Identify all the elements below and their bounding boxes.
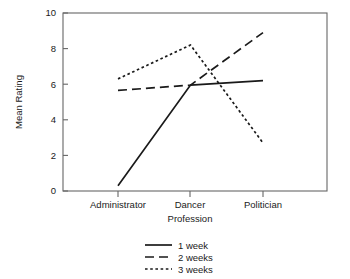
chart-legend: 1 week 2 weeks 3 weeks — [145, 240, 213, 275]
x-tick-label-administrator: Administrator — [90, 199, 146, 210]
y-tick-label-2: 2 — [51, 150, 56, 161]
y-tick-label-4: 4 — [51, 114, 56, 125]
y-axis-title: Mean Rating — [13, 75, 24, 129]
y-tick-label-8: 8 — [51, 43, 56, 54]
x-tick-label-dancer: Dancer — [175, 199, 206, 210]
series-line-3-weeks — [118, 45, 263, 143]
legend-label-2-weeks: 2 weeks — [178, 252, 213, 263]
legend-label-3-weeks: 3 weeks — [178, 264, 213, 275]
y-tick-label-0: 0 — [51, 185, 56, 196]
x-axis-title: Profession — [168, 213, 213, 224]
x-tick-label-politician: Politician — [244, 199, 282, 210]
legend-label-1-week: 1 week — [178, 240, 208, 251]
y-tick-label-6: 6 — [51, 79, 56, 90]
y-axis-ticks — [63, 13, 68, 191]
plot-frame — [63, 13, 327, 191]
chart-figure: 0 2 4 6 8 10 Mean Rating Administrator D… — [0, 0, 350, 279]
line-chart: 0 2 4 6 8 10 Mean Rating Administrator D… — [0, 0, 350, 279]
series-line-1-week — [118, 81, 263, 186]
y-tick-label-10: 10 — [45, 7, 56, 18]
x-axis-ticks — [118, 191, 263, 197]
